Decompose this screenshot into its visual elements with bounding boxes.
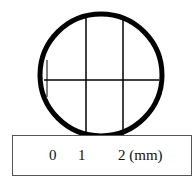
scale-label-2-mm: 2 (mm) [118, 147, 163, 164]
scale-label-0: 0 [49, 147, 57, 163]
scale-label-1: 1 [78, 147, 86, 163]
specimen-circle [40, 14, 162, 136]
circle-diagram: 0 1 2 (mm) [0, 0, 196, 185]
scale-bar-box [13, 136, 192, 176]
